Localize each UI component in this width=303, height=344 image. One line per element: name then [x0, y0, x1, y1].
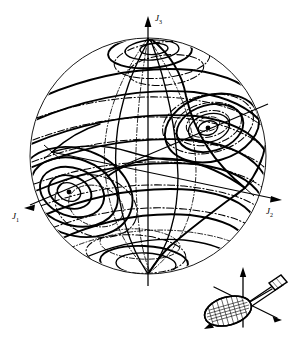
- stable-center-dot-j1: [67, 190, 72, 195]
- axis-j2-label: J2: [266, 206, 273, 218]
- figure-root: J3 J1 J2: [0, 0, 303, 344]
- inset-axis-vertical-arrowhead: [240, 267, 246, 277]
- axis-j3-arrowhead: [145, 16, 152, 27]
- separatrix-a: [150, 38, 245, 188]
- axis-j3-label: J3: [155, 13, 162, 25]
- phase-portrait-svg: J3 J1 J2: [0, 0, 303, 344]
- axis-j2-arrowhead: [270, 196, 282, 203]
- axis-j1-label: J1: [12, 211, 19, 223]
- stable-center-dot-j1b: [206, 126, 211, 131]
- inset-axis-lower-right-arrowhead: [273, 316, 282, 322]
- axis-j1-arrowhead: [24, 205, 35, 212]
- inset-tennis-racket: [201, 267, 287, 331]
